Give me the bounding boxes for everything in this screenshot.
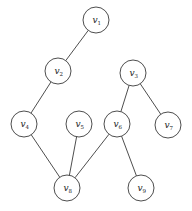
graph-diagram: v1v2v3v4v5v6v7v8v9 [0, 0, 192, 211]
node-subscript: 9 [143, 188, 147, 194]
edge-v3-v6 [121, 85, 129, 111]
edges-layer [31, 30, 161, 177]
node-v8: v8 [54, 175, 80, 201]
edge-v6-v8 [75, 134, 109, 178]
node-subscript: 1 [98, 20, 102, 26]
edge-v5-v8 [69, 137, 76, 175]
node-subscript: 2 [60, 71, 64, 77]
node-v2: v2 [45, 58, 71, 84]
edge-v1-v2 [66, 30, 88, 60]
edge-v3-v7 [140, 84, 160, 114]
node-subscript: 3 [135, 73, 139, 79]
node-v3: v3 [120, 60, 146, 86]
node-v1: v1 [83, 7, 109, 33]
node-subscript: 8 [69, 188, 73, 194]
node-subscript: 4 [26, 124, 30, 130]
node-subscript: 7 [170, 125, 174, 131]
node-v6: v6 [104, 111, 130, 137]
node-subscript: 5 [81, 124, 85, 130]
node-v9: v9 [128, 175, 154, 201]
node-subscript: 6 [119, 124, 123, 130]
edge-v6-v9 [122, 136, 137, 176]
edge-v2-v4 [31, 82, 51, 113]
node-v4: v4 [11, 111, 37, 137]
node-v7: v7 [155, 112, 181, 138]
node-v5: v5 [66, 111, 92, 137]
edge-v4-v8 [31, 135, 60, 177]
